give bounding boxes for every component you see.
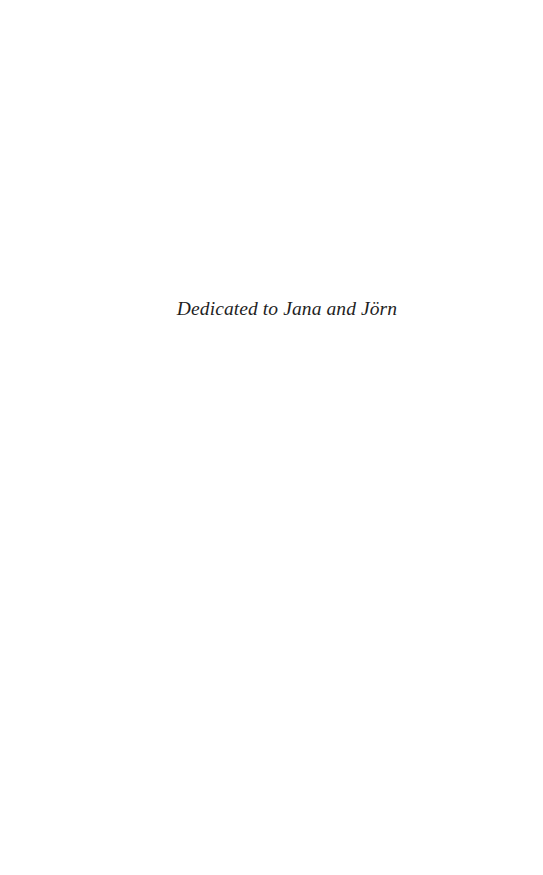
dedication-text: Dedicated to Jana and Jörn bbox=[30, 297, 543, 321]
book-page: Dedicated to Jana and Jörn bbox=[0, 0, 543, 875]
